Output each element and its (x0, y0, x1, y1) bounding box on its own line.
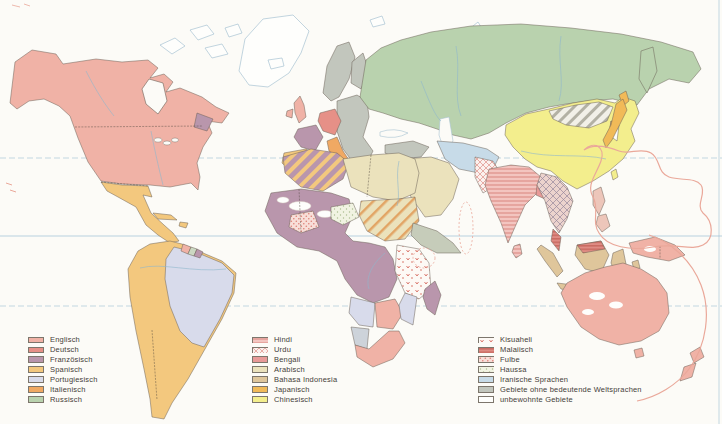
legend-swatch-franzoesisch (28, 356, 44, 363)
legend-swatch-fulbe (478, 356, 494, 363)
legend-item-gebiete-ohne-weltsprachen: Gebiete ohne bedeutende Weltsprachen (478, 384, 642, 394)
legend-label: Bengali (274, 355, 300, 364)
legend-item-bengali: Bengali (252, 355, 337, 365)
legend-item-malaiisch: Malaiisch (478, 345, 642, 355)
legend-swatch-chinesisch (252, 396, 268, 403)
legend-swatch-italienisch (28, 386, 44, 393)
legend-item-japanisch: Japanisch (252, 384, 337, 394)
legend-item-urdu: Urdu (252, 345, 337, 355)
legend-item-hindi: Hindi (252, 335, 337, 345)
legend-column-3: Kisuaheli Malaiisch Fulbe Haussa Iranisc… (478, 335, 642, 404)
legend-swatch-portugiesisch (28, 376, 44, 383)
legend-item-italienisch: Italienisch (28, 384, 98, 394)
legend-label: Bahasa Indonesia (274, 375, 337, 384)
legend-label: Fulbe (500, 355, 520, 364)
legend-item-deutsch: Deutsch (28, 345, 98, 355)
legend-label: Französisch (50, 355, 93, 364)
legend-swatch-russisch (28, 396, 44, 403)
legend-label: Chinesisch (274, 395, 313, 404)
legend-item-chinesisch: Chinesisch (252, 394, 337, 404)
legend-label: Malaiisch (500, 345, 533, 354)
legend-label: Kisuaheli (500, 335, 532, 344)
legend-swatch-arabisch (252, 366, 268, 373)
legend-label: Deutsch (50, 345, 79, 354)
legend-item-unbewohnte-gebiete: unbewohnte Gebiete (478, 394, 642, 404)
legend-label: Haussa (500, 365, 527, 374)
legend-item-haussa: Haussa (478, 365, 642, 375)
legend-label: Italienisch (50, 385, 86, 394)
legend-column-2: Hindi Urdu Bengali Arabisch Bahasa Indon… (252, 335, 337, 404)
legend-label: Arabisch (274, 365, 305, 374)
legend-item-kisuaheli: Kisuaheli (478, 335, 642, 345)
legend-label: unbewohnte Gebiete (500, 395, 573, 404)
legend-swatch-japanisch (252, 386, 268, 393)
legend-column-1: Englisch Deutsch Französisch Spanisch Po… (28, 335, 98, 404)
legend-swatch-spanisch (28, 366, 44, 373)
legend-label: Iranische Sprachen (500, 375, 568, 384)
legend-label: Portugiesisch (50, 375, 98, 384)
legend-item-spanisch: Spanisch (28, 365, 98, 375)
legend-label: Englisch (50, 335, 80, 344)
legend-swatch-deutsch (28, 347, 44, 354)
legend-label: Urdu (274, 345, 291, 354)
legend-swatch-bahasa-indonesia (252, 376, 268, 383)
world-language-map-page: Englisch Deutsch Französisch Spanisch Po… (0, 0, 722, 424)
legend-item-iranische-sprachen: Iranische Sprachen (478, 375, 642, 385)
legend-label: Japanisch (274, 385, 310, 394)
legend-swatch-gebiete-ohne-weltsprachen (478, 386, 494, 393)
legend-item-bahasa-indonesia: Bahasa Indonesia (252, 375, 337, 385)
legend-swatch-malaiisch (478, 347, 494, 354)
legend-label: Spanisch (50, 365, 82, 374)
legend-label: Gebiete ohne bedeutende Weltsprachen (500, 385, 642, 394)
legend-swatch-englisch (28, 337, 44, 344)
legend-item-portugiesisch: Portugiesisch (28, 375, 98, 385)
legend-item-franzoesisch: Französisch (28, 355, 98, 365)
legend-swatch-iranische-sprachen (478, 376, 494, 383)
legend-label: Russisch (50, 395, 82, 404)
legend-item-fulbe: Fulbe (478, 355, 642, 365)
legend-swatch-unbewohnte-gebiete (478, 396, 494, 403)
legend-item-russisch: Russisch (28, 394, 98, 404)
legend-swatch-kisuaheli (478, 337, 494, 344)
legend-item-englisch: Englisch (28, 335, 98, 345)
legend-swatch-bengali (252, 356, 268, 363)
legend-label: Hindi (274, 335, 292, 344)
legend-item-arabisch: Arabisch (252, 365, 337, 375)
legend-swatch-haussa (478, 366, 494, 373)
legend-swatch-hindi (252, 337, 268, 344)
legend-swatch-urdu (252, 347, 268, 354)
